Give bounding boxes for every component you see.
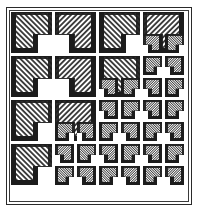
pattern-tile	[165, 166, 184, 185]
pattern-tile	[99, 144, 118, 163]
pattern-tile	[11, 56, 52, 97]
pattern-tile	[143, 78, 162, 97]
pattern-tile	[77, 122, 96, 141]
pattern-tile	[121, 166, 140, 185]
pattern-tile	[99, 12, 140, 53]
pattern-tile	[11, 100, 52, 141]
pattern-tile	[11, 144, 52, 185]
pattern-tile	[55, 166, 74, 185]
pattern-tile	[143, 100, 162, 119]
pattern-tile	[165, 100, 184, 119]
pattern-tile	[11, 12, 52, 53]
pattern-tile	[143, 56, 162, 75]
pattern-tile	[55, 56, 96, 97]
pattern-tile	[121, 122, 140, 141]
pattern-tile	[165, 122, 184, 141]
pattern-tile	[121, 144, 140, 163]
pattern-tile	[99, 100, 118, 119]
figure-root: Recursive square tiling pattern Self-sim…	[0, 0, 198, 212]
pattern-tile	[121, 100, 140, 119]
pattern-tile	[165, 144, 184, 163]
pattern-tile	[55, 12, 96, 53]
pattern-tile	[99, 78, 118, 97]
pattern-tile	[55, 144, 74, 163]
pattern-tile	[99, 166, 118, 185]
pattern-tile	[143, 166, 162, 185]
tiling-pattern-field	[11, 12, 187, 200]
pattern-tile	[165, 56, 184, 75]
pattern-tile	[77, 166, 96, 185]
pattern-tile	[121, 78, 140, 97]
pattern-tile	[77, 144, 96, 163]
pattern-tile	[55, 122, 74, 141]
pattern-tile	[143, 34, 162, 53]
pattern-tile	[165, 34, 184, 53]
pattern-tile	[143, 144, 162, 163]
pattern-tile	[99, 122, 118, 141]
pattern-tile	[143, 122, 162, 141]
pattern-tile	[165, 78, 184, 97]
